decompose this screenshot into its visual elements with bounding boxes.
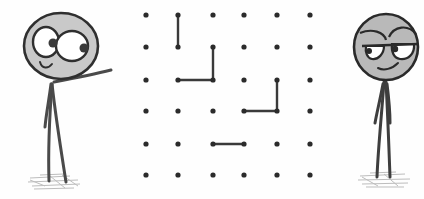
ground-scribble	[28, 174, 80, 189]
pupil	[49, 39, 58, 48]
illustration	[0, 0, 424, 199]
board-dot	[175, 12, 180, 17]
board-dot	[307, 172, 312, 177]
pupil	[80, 44, 89, 53]
board-dot	[143, 108, 148, 113]
board-dot	[307, 108, 312, 113]
board-dot	[241, 44, 246, 49]
board-dot	[241, 108, 246, 113]
board-dot	[143, 172, 148, 177]
board-dot	[274, 44, 279, 49]
left-stick-figure	[24, 13, 111, 189]
board-dot	[241, 77, 246, 82]
board-dot	[210, 141, 215, 146]
drawing-canvas	[0, 0, 424, 199]
board-dot	[175, 172, 180, 177]
board-dot	[175, 141, 180, 146]
board-dot	[274, 77, 279, 82]
board-dot	[241, 141, 246, 146]
board-dot	[274, 108, 279, 113]
board-dot	[175, 108, 180, 113]
board-dot	[307, 77, 312, 82]
board-dot	[210, 12, 215, 17]
board-dot	[143, 12, 148, 17]
board-dot	[307, 141, 312, 146]
board-dot	[210, 108, 215, 113]
ground-scribble	[358, 172, 410, 187]
pupil	[392, 46, 398, 52]
board-dot	[175, 77, 180, 82]
board-dot	[241, 12, 246, 17]
right-stick-figure	[354, 14, 418, 187]
legs	[49, 84, 66, 182]
board-dot	[143, 44, 148, 49]
dots-and-boxes-board	[143, 12, 312, 177]
board-dot	[307, 12, 312, 17]
drawn-lines	[178, 15, 277, 144]
board-dot	[143, 77, 148, 82]
board-dot	[210, 44, 215, 49]
board-dot	[274, 141, 279, 146]
board-dot	[175, 44, 180, 49]
board-dot	[143, 141, 148, 146]
dot-grid	[143, 12, 312, 177]
board-dot	[241, 172, 246, 177]
board-dot	[307, 44, 312, 49]
pupil	[366, 48, 372, 54]
board-dot	[274, 172, 279, 177]
board-dot	[210, 172, 215, 177]
board-dot	[210, 77, 215, 82]
board-dot	[274, 12, 279, 17]
